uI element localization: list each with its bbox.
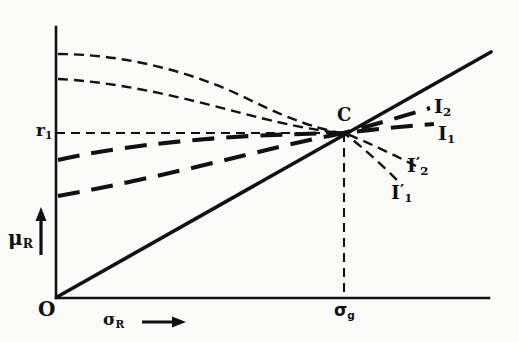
point-c-label: C — [337, 106, 351, 124]
x-axis-arrow-icon — [142, 317, 186, 328]
curve-label-i1: I1 — [438, 124, 455, 146]
x-tick-label-sigma-g: σg — [334, 302, 355, 320]
x-axis-label: σR — [103, 311, 124, 329]
chart-canvas — [0, 0, 519, 342]
figure-container: μR σR O r1 σg C I2 I1 I′2 I′1 — [0, 0, 519, 342]
y-axis-label: μR — [8, 228, 33, 251]
curve-label-i2: I2 — [434, 97, 451, 119]
curve-label-i1-prime: I′1 — [391, 183, 412, 205]
curve-i1-prime — [58, 79, 398, 181]
y-tick-label-r1: r1 — [36, 122, 52, 140]
origin-label: O — [38, 299, 55, 319]
curve-label-i2-prime: I′2 — [407, 156, 428, 178]
y-axis-arrow-icon — [36, 207, 47, 255]
